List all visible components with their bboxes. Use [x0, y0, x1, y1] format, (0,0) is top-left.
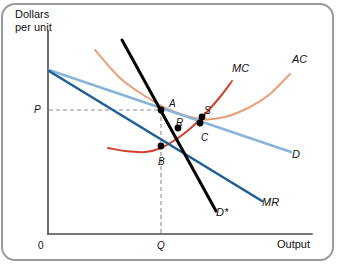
chart-plot-area: [0, 0, 339, 266]
curve-MC: [108, 81, 232, 152]
curve-D: [49, 70, 291, 152]
origin-label: 0: [38, 240, 44, 251]
y-axis-title-line2: per unit: [15, 21, 52, 33]
x-axis-title: Output: [277, 238, 310, 251]
curve-label-D-star: D*: [216, 206, 228, 218]
curves: [49, 40, 291, 211]
point-label-B: B: [158, 156, 165, 167]
point-marker-C: [197, 120, 204, 127]
point-marker-A: [158, 107, 165, 114]
point-marker-B: [158, 143, 165, 150]
point-label-C: C: [201, 132, 208, 143]
curve-label-AC: AC: [292, 53, 307, 65]
point-label-A: A: [169, 98, 176, 109]
curve-label-MR: MR: [262, 196, 279, 208]
y-axis-title: Dollars per unit: [15, 8, 52, 33]
y-tick-label-P: P: [34, 104, 41, 115]
curve-label-D: D: [292, 148, 300, 160]
curve-MR: [49, 71, 262, 201]
point-label-S: S: [204, 105, 211, 116]
y-axis-title-line1: Dollars: [15, 8, 49, 20]
x-tick-label-Q: Q: [157, 240, 165, 251]
curve-label-MC: MC: [232, 62, 249, 74]
curve-AC: [95, 50, 290, 119]
point-label-R: R: [176, 117, 183, 128]
chart-figure: Dollars per unit 0 Output P Q MC AC D MR…: [0, 0, 339, 266]
